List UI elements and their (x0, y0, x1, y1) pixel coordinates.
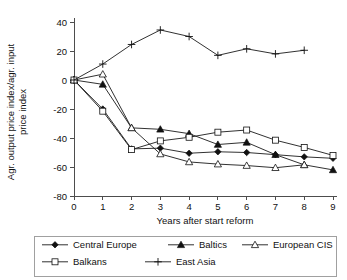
y-tick-label: -60 (53, 162, 67, 173)
y-tick-label: -40 (53, 133, 67, 144)
marker-open-square (129, 147, 135, 153)
marker-open-square (157, 138, 163, 144)
y-axis-title-line-1: Agr. output price index/agr. input (5, 44, 16, 181)
marker-open-square (330, 152, 336, 158)
x-tick-label: 1 (100, 201, 105, 212)
y-tick-label: 20 (56, 46, 67, 57)
x-tick-label: 5 (215, 201, 220, 212)
y-tick-label: 0 (62, 75, 67, 86)
y-tick-label: 40 (56, 17, 67, 28)
chart-background (0, 0, 347, 280)
x-tick-label: 7 (273, 201, 278, 212)
y-tick-label: -80 (53, 191, 67, 202)
line-chart: 40200-20-40-60-80 0123456789 Years after… (0, 0, 347, 280)
marker-open-square (100, 108, 106, 114)
marker-open-square (244, 127, 250, 133)
x-axis-title: Years after start reform (157, 215, 254, 226)
marker-open-square (52, 259, 58, 265)
marker-open-square (301, 144, 307, 150)
legend-label: East Asia (176, 256, 216, 267)
x-tick-label: 9 (330, 201, 335, 212)
marker-open-square (215, 129, 221, 135)
x-tick-label: 3 (158, 201, 163, 212)
y-tick-label: -20 (53, 104, 67, 115)
x-tick-label: 6 (244, 201, 249, 212)
legend-label: Balkans (73, 256, 107, 267)
x-tick-label: 4 (186, 201, 191, 212)
legend-label: Central Europe (73, 239, 137, 250)
marker-open-square (272, 137, 278, 143)
x-tick-label: 0 (71, 201, 76, 212)
chart-figure: 40200-20-40-60-80 0123456789 Years after… (0, 0, 347, 280)
x-tick-label: 2 (129, 201, 134, 212)
legend-label: Baltics (199, 239, 227, 250)
y-axis-title-line-2: price index (17, 89, 28, 135)
marker-open-square (186, 134, 192, 140)
legend-label: European CIS (273, 239, 333, 250)
x-tick-label: 8 (302, 201, 307, 212)
